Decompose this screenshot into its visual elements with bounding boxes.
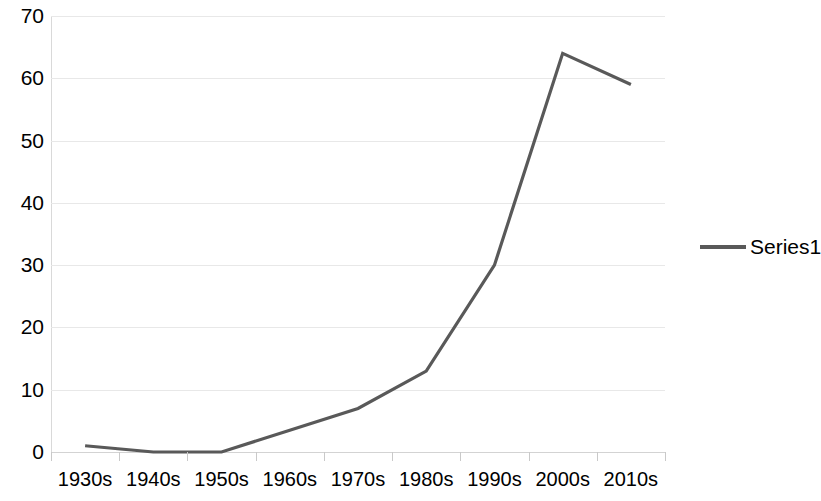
- y-axis-label-40: 40: [0, 192, 44, 213]
- x-axis-tick-3: [256, 452, 257, 461]
- x-axis-tick-8: [597, 452, 598, 461]
- line-chart: 010203040506070 1930s1940s1950s1960s1970…: [0, 0, 821, 501]
- x-axis-ticks: [51, 452, 665, 461]
- x-axis-label-1970s: 1970s: [324, 466, 392, 496]
- chart-legend: Series1: [700, 236, 821, 257]
- y-axis-label-30: 30: [0, 254, 44, 275]
- x-axis-tick-4: [324, 452, 325, 461]
- legend-line-swatch-series1: [700, 245, 746, 249]
- x-axis-label-2010s: 2010s: [597, 466, 665, 496]
- x-axis-label-1980s: 1980s: [392, 466, 460, 496]
- x-axis-label-1950s: 1950s: [187, 466, 255, 496]
- x-axis-label-1930s: 1930s: [51, 466, 119, 496]
- series-line-group: [51, 16, 665, 452]
- y-axis-label-20: 20: [0, 316, 44, 337]
- y-axis-label-50: 50: [0, 130, 44, 151]
- x-axis-label-1960s: 1960s: [256, 466, 324, 496]
- x-axis-tick-6: [460, 452, 461, 461]
- x-axis-tick-1: [119, 452, 120, 461]
- x-axis-tick-2: [187, 452, 188, 461]
- x-axis-label-2000s: 2000s: [529, 466, 597, 496]
- x-axis-tick-5: [392, 452, 393, 461]
- y-axis-label-60: 60: [0, 67, 44, 88]
- y-axis-label-10: 10: [0, 379, 44, 400]
- x-axis-label-1990s: 1990s: [460, 466, 528, 496]
- x-axis-label-1940s: 1940s: [119, 466, 187, 496]
- y-axis-labels: 010203040506070: [0, 16, 44, 452]
- y-axis-label-0: 0: [0, 441, 44, 462]
- x-axis-tick-0: [51, 452, 52, 461]
- plot-area: [51, 16, 665, 452]
- x-axis-labels: 1930s1940s1950s1960s1970s1980s1990s2000s…: [51, 466, 665, 496]
- x-axis-tick-9: [665, 452, 666, 461]
- legend-label-series1: Series1: [750, 236, 821, 257]
- y-axis-label-70: 70: [0, 5, 44, 26]
- x-axis-tick-7: [529, 452, 530, 461]
- series-line-series1: [85, 53, 631, 452]
